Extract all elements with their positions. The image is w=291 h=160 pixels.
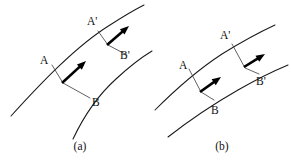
panel-b-velocity-arrow-ab [200,77,221,92]
panel-b-upper-streamline [155,25,275,110]
panel-b-point-b-prime-label: B' [256,76,266,88]
panel-a-point-a-prime-label: A' [87,16,97,28]
figure-canvas [0,0,291,160]
panel-b [155,25,288,137]
figure-root: A A' B B' A A' B B' (a) (b) [0,0,291,160]
panel-b-point-b-label: B [211,105,219,117]
panel-a-connector-ab [52,65,90,98]
panel-b-caption: (b) [210,141,234,153]
panel-b-velocity-arrow-ab-prime [244,54,265,67]
panel-b-point-a-label: A [179,60,187,72]
panel-a-point-a-label: A [40,55,48,67]
panel-b-lower-streamline [168,65,288,137]
panel-a-velocity-arrow-ab-prime [107,26,129,45]
panel-a [11,5,152,139]
panel-b-velocity-arrow-ab-prime-head [255,54,265,62]
panel-a-velocity-arrow-ab-shaft [62,65,82,83]
panel-a-velocity-arrow-ab [62,61,86,83]
panel-b-point-a-prime-label: A' [220,30,230,42]
panel-a-point-b-label: B [92,97,100,109]
panel-a-caption: (a) [68,141,92,153]
panel-a-point-b-prime-label: B' [120,50,130,62]
